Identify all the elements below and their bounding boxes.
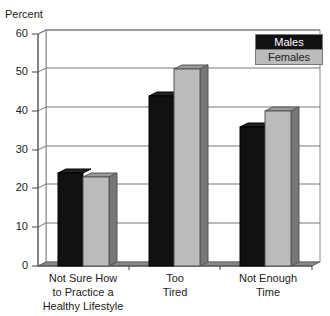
- x-label-too-tired: Too Tired: [145, 271, 205, 299]
- y-tick-20: 20: [0, 181, 28, 193]
- chart: Percent: [0, 0, 330, 316]
- legend-females: Females: [256, 50, 322, 64]
- y-tick-0: 0: [0, 259, 28, 271]
- x-label-not-sure: Not Sure How to Practice a Healthy Lifes…: [28, 271, 138, 313]
- x-label-not-enough-time: Not Enough Time: [228, 271, 308, 299]
- y-tick-30: 30: [0, 143, 28, 155]
- bar-group-2: [149, 65, 208, 266]
- legend-males: Males: [256, 35, 322, 50]
- y-tick-50: 50: [0, 65, 28, 77]
- legend: Males Females: [255, 34, 323, 65]
- y-tick-40: 40: [0, 104, 28, 116]
- bar-group-1: [58, 169, 117, 266]
- bar-group-3: [240, 107, 299, 266]
- y-tick-10: 10: [0, 220, 28, 232]
- y-tick-60: 60: [0, 27, 28, 39]
